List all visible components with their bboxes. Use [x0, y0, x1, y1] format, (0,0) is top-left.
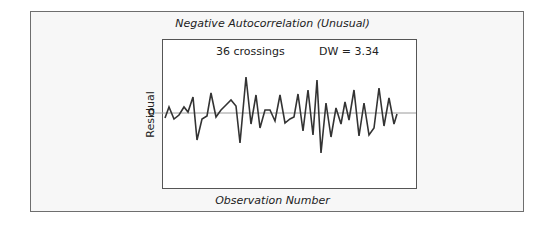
residual-plot [0, 0, 545, 226]
residual-series-line [165, 77, 397, 153]
